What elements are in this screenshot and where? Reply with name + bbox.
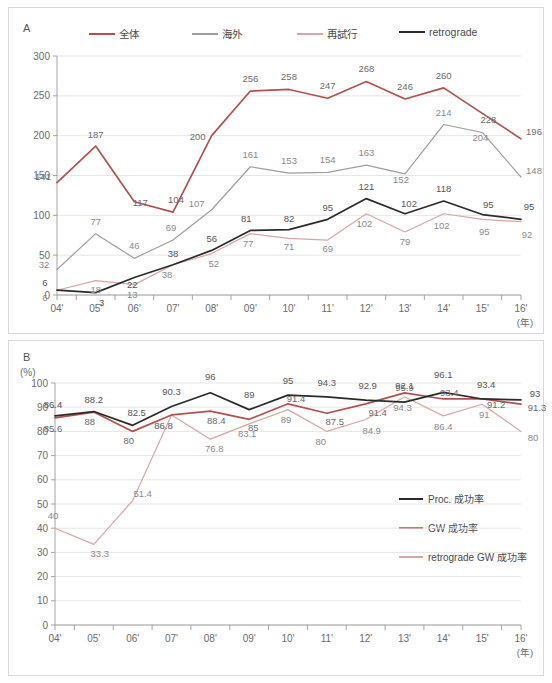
x-tick-label: 16' [514, 303, 527, 314]
data-label: 91.4 [368, 407, 387, 418]
data-label: 214 [436, 107, 452, 118]
data-label: 163 [358, 147, 374, 158]
data-label: 91 [479, 409, 490, 420]
panel-a: A 全体 海外 再試行 retrograde 05010015020025030… [8, 7, 544, 334]
y-tick-label: 30 [37, 547, 49, 558]
data-label: 102 [401, 198, 417, 209]
series-line-0 [57, 81, 521, 212]
data-label: 161 [242, 149, 258, 160]
y-tick-label: 60 [37, 474, 49, 485]
x-tick-label: 07' [165, 633, 178, 644]
data-label: 93.4 [440, 387, 459, 398]
chart-page: A 全体 海外 再試行 retrograde 05010015020025030… [0, 0, 552, 683]
data-label: 102 [434, 220, 450, 231]
y-tick-label: 40 [37, 523, 49, 534]
data-label: 95 [322, 202, 333, 213]
x-tick-label: 14' [437, 303, 450, 314]
data-label: 152 [393, 174, 409, 185]
y-tick-label: 50 [37, 499, 49, 510]
x-tick-label: 11' [321, 633, 333, 644]
data-label: 200 [190, 131, 206, 142]
data-label: 77 [90, 216, 101, 227]
y-tick-label: 200 [33, 130, 50, 141]
data-label: 204 [472, 132, 488, 143]
data-label: 89 [281, 414, 292, 425]
x-tick-label: 08' [204, 633, 217, 644]
x-tick-label: 09' [244, 303, 257, 314]
data-label: 90.3 [162, 386, 181, 397]
data-label: 86.4 [434, 421, 453, 432]
x-tick-label: 15' [476, 633, 489, 644]
data-label: 79 [400, 236, 411, 247]
data-label: 86.8 [154, 420, 173, 431]
data-label: 95 [524, 201, 535, 212]
data-label: 88 [85, 416, 96, 427]
data-label: 51.4 [133, 488, 152, 499]
data-label: 96.1 [434, 369, 453, 380]
y-tick-label: 0 [42, 620, 48, 631]
data-label: 260 [436, 70, 452, 81]
data-label: 82.5 [127, 407, 146, 418]
data-label: 32 [39, 259, 50, 270]
data-label: 84.9 [362, 425, 381, 436]
data-label: 92 [522, 229, 533, 240]
data-label: 89 [244, 389, 255, 400]
data-label: 96 [205, 371, 216, 382]
y-tick-label: 300 [33, 51, 50, 62]
data-label: 69 [166, 222, 177, 233]
data-label: 38 [168, 248, 179, 259]
x-tick-label: 13' [398, 633, 411, 644]
data-label: 71 [284, 241, 295, 252]
data-label: 6 [42, 277, 47, 288]
panel-b: B (%) Proc. 成功率 GW 成功率 retrograde GW 成功率… [8, 340, 544, 676]
data-label: 33.3 [91, 548, 110, 559]
data-label: 187 [88, 129, 104, 140]
data-label: 93.4 [477, 379, 496, 390]
y-tick-label: 100 [31, 378, 48, 389]
data-label: 107 [189, 198, 205, 209]
data-label: 153 [281, 155, 297, 166]
x-tick-label: 13' [398, 303, 411, 314]
data-label: 228 [480, 114, 496, 125]
data-label: 85.6 [44, 423, 63, 434]
chart-b-svg: 010203040506070809010004'05'06'07'08'09'… [9, 341, 545, 677]
x-axis-unit: (年) [517, 317, 533, 328]
data-label: 95 [479, 226, 490, 237]
data-label: 95 [283, 375, 294, 386]
data-label: 46 [129, 240, 140, 251]
data-label: 92.9 [358, 380, 377, 391]
data-label: 88.2 [85, 394, 104, 405]
data-label: 91.4 [287, 393, 306, 404]
data-label: 52 [208, 258, 219, 269]
y-tick-label: 70 [37, 450, 49, 461]
data-label: 3 [99, 297, 104, 308]
data-label: 80 [316, 436, 327, 447]
y-tick-label: 10 [37, 595, 49, 606]
data-label: 86.4 [44, 399, 63, 410]
x-tick-label: 06' [126, 633, 139, 644]
data-label: 94.3 [318, 377, 337, 388]
data-label: 87.5 [326, 416, 345, 427]
data-label: 22 [127, 279, 138, 290]
data-label: 80 [528, 432, 539, 443]
data-label: 118 [436, 183, 451, 194]
data-label: 247 [320, 80, 336, 91]
data-label: 38 [162, 269, 173, 280]
data-label: 91.3 [528, 402, 547, 413]
y-tick-label: 100 [33, 210, 50, 221]
data-label: 88.4 [207, 415, 226, 426]
data-label: 121 [358, 181, 374, 192]
data-label: 95 [483, 199, 494, 210]
x-tick-label: 12' [360, 303, 373, 314]
x-tick-label: 12' [359, 633, 372, 644]
x-tick-label: 16' [514, 633, 527, 644]
data-label: 268 [358, 63, 374, 74]
data-label: 256 [242, 73, 258, 84]
x-tick-label: 08' [205, 303, 218, 314]
data-label: 56 [206, 233, 217, 244]
data-label: 69 [322, 243, 333, 254]
y-tick-label: 20 [37, 571, 49, 582]
x-tick-label: 05' [87, 633, 100, 644]
data-label: 104 [168, 194, 184, 205]
data-label: 18 [90, 284, 101, 295]
